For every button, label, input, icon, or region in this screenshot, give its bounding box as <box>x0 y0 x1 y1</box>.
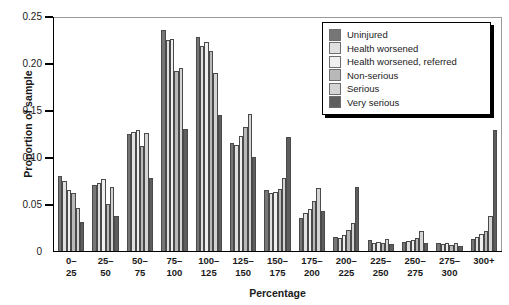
x-axis-tick-label-line: 25– <box>88 255 122 267</box>
x-axis-tick-label-line: 125 <box>192 267 226 279</box>
legend-item-label: Non-serious <box>347 70 398 81</box>
legend-swatch-icon <box>329 83 341 95</box>
x-axis-tick-label: 100–125 <box>192 255 226 278</box>
x-axis-tick-label-line: 175 <box>260 267 294 279</box>
bar <box>252 157 256 251</box>
legend-item: Non-serious <box>329 69 484 83</box>
x-axis-tick-label: 125–150 <box>226 255 260 278</box>
y-axis-tick-label: 0.05 <box>2 199 42 210</box>
chart-root: Proportion of sample 00.050.100.150.200.… <box>0 0 509 305</box>
legend-item-label: Uninjured <box>347 29 388 40</box>
legend-item: Health worsened <box>329 42 484 56</box>
bar <box>321 211 325 251</box>
y-axis-tick <box>45 16 53 17</box>
y-axis-tick <box>45 204 53 205</box>
x-axis-tick-label-line: 300+ <box>467 255 501 267</box>
bar <box>389 244 393 251</box>
x-axis-tick-label-line: 175– <box>295 255 329 267</box>
bar-group <box>88 17 122 251</box>
x-axis-tick-label: 25–50 <box>88 255 122 278</box>
legend-item: Health worsened, referred <box>329 55 484 69</box>
bar <box>493 130 497 251</box>
x-axis-tick-label-line: 150– <box>260 255 294 267</box>
bar <box>286 137 290 251</box>
x-axis-tick-label-line: 50 <box>88 267 122 279</box>
bar <box>218 115 222 251</box>
x-axis-tick-label: 225–250 <box>364 255 398 278</box>
legend-item: Very serious <box>329 96 484 110</box>
x-axis-tick-label-line: 275 <box>398 267 432 279</box>
x-axis-tick-label: 200–225 <box>329 255 363 278</box>
x-axis-labels: 0–2525–5050–7575–100100–125125–150150–17… <box>54 255 501 278</box>
legend-item-label: Very serious <box>347 97 399 108</box>
y-axis-tick-label: 0.20 <box>2 58 42 69</box>
x-axis-tick-label-line: 200 <box>295 267 329 279</box>
x-axis-tick-label: 75–100 <box>157 255 191 278</box>
x-axis-tick-label-line: 50– <box>123 255 157 267</box>
x-axis-tick-label-line: 25 <box>54 267 88 279</box>
x-axis-tick-label-line: 0– <box>54 255 88 267</box>
x-axis-tick-label-line: 225– <box>364 255 398 267</box>
legend-item-label: Health worsened, referred <box>347 56 457 67</box>
y-axis-tick-label: 0.25 <box>2 11 42 22</box>
bar <box>114 216 118 251</box>
x-axis-tick-label-line: 275– <box>432 255 466 267</box>
bar <box>80 222 84 251</box>
x-axis-tick-label-line: 200– <box>329 255 363 267</box>
legend: UninjuredHealth worsenedHealth worsened,… <box>322 22 491 115</box>
x-axis-tick-label-line: 125– <box>226 255 260 267</box>
x-axis-tick-label: 275–300 <box>432 255 466 278</box>
x-axis-tick-label: 150–175 <box>260 255 294 278</box>
bar-group <box>123 17 157 251</box>
x-axis-tick-label-line: 250– <box>398 255 432 267</box>
x-axis-tick-label-line: 100 <box>157 267 191 279</box>
x-axis-title: Percentage <box>54 287 501 299</box>
bar-group <box>157 17 191 251</box>
x-axis-tick-label: 300+ <box>467 255 501 278</box>
x-axis-tick-label-line: 150 <box>226 267 260 279</box>
y-axis-tick <box>45 63 53 64</box>
legend-item: Serious <box>329 82 484 96</box>
x-axis-tick-label-line: 75– <box>157 255 191 267</box>
legend-swatch-icon <box>329 69 341 81</box>
x-axis-tick-label-line: 225 <box>329 267 363 279</box>
x-axis-tick-label: 0–25 <box>54 255 88 278</box>
x-axis-tick-label-line: 300 <box>432 267 466 279</box>
bar <box>355 187 359 251</box>
bar-group <box>192 17 226 251</box>
legend-swatch-icon <box>329 42 341 54</box>
x-axis-tick-label: 50–75 <box>123 255 157 278</box>
y-axis-tick <box>45 110 53 111</box>
bar-group <box>54 17 88 251</box>
bar <box>458 246 462 251</box>
x-axis-tick-label-line: 250 <box>364 267 398 279</box>
legend-item: Uninjured <box>329 28 484 42</box>
x-axis-tick-label-line: 75 <box>123 267 157 279</box>
y-axis-tick-label: 0.10 <box>2 152 42 163</box>
bar <box>183 129 187 251</box>
legend-item-label: Health worsened <box>347 43 418 54</box>
bar <box>149 178 153 251</box>
x-axis-tick-label-line: 100– <box>192 255 226 267</box>
legend-swatch-icon <box>329 56 341 68</box>
y-axis-tick-label: 0 <box>2 246 42 257</box>
y-axis-tick-label: 0.15 <box>2 105 42 116</box>
y-axis-tick <box>45 157 53 158</box>
x-axis-tick-label: 250–275 <box>398 255 432 278</box>
bar-group <box>260 17 294 251</box>
bar-group <box>226 17 260 251</box>
legend-item-label: Serious <box>347 83 379 94</box>
bar <box>424 243 428 251</box>
legend-swatch-icon <box>329 96 341 108</box>
legend-swatch-icon <box>329 29 341 41</box>
x-axis-tick-label: 175–200 <box>295 255 329 278</box>
